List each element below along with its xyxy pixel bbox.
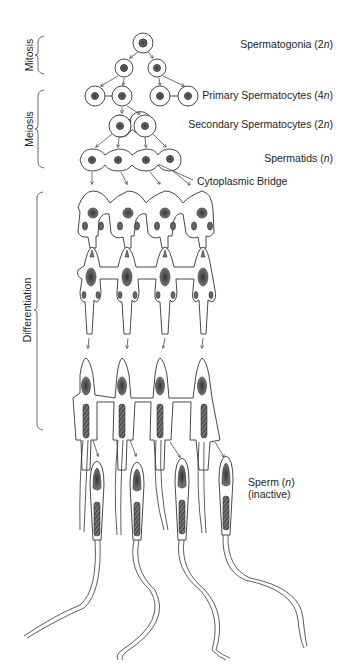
differentiation-bracket — [34, 192, 43, 430]
stage-label-mitosis: Mitosis — [23, 39, 35, 72]
stage-label-meiosis: Meiosis — [23, 111, 35, 147]
mitosis-cells — [115, 33, 166, 77]
primary-spermatocytes — [85, 86, 198, 106]
stage-label-differentiation: Differentiation — [21, 278, 33, 343]
label-spermatogonia: Spermatogonia (2n) — [240, 38, 333, 50]
secondary-spermatocytes — [109, 112, 156, 137]
mitosis-arrows — [101, 52, 184, 86]
stage-brackets — [34, 36, 44, 430]
sperm-flagella — [24, 535, 307, 660]
label-cytoplasmic-bridge: Cytoplasmic Bridge — [197, 175, 287, 187]
early-differentiating-spermatids — [78, 191, 214, 248]
label-secondary-spermatocytes: Secondary Spermatocytes (2n) — [188, 118, 333, 130]
label-spermatids: Spermatids (n) — [264, 152, 333, 164]
late-spermatids — [73, 358, 220, 470]
late-spermatid-parts — [82, 377, 208, 438]
mitosis-bracket — [35, 36, 44, 74]
elongating-spermatids — [78, 247, 216, 334]
meiosis-bracket — [35, 90, 44, 168]
label-sperm-note: (inactive) — [248, 488, 295, 500]
label-primary-spermatocytes: Primary Spermatocytes (4n) — [202, 89, 333, 101]
label-sperm: Sperm (n) (inactive) — [248, 476, 295, 500]
